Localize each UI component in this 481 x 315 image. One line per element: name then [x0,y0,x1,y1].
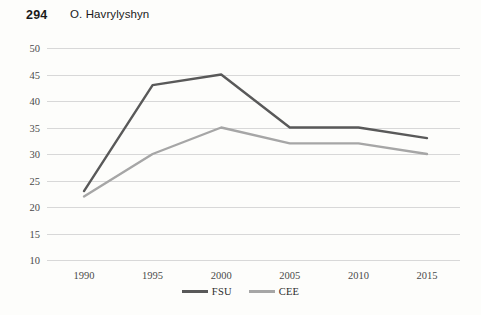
series-line-cee [84,128,427,197]
running-head-author: O. Havrylyshyn [70,8,149,20]
y-axis-tick-label: 15 [30,228,41,239]
y-axis-tick-label: 50 [30,43,41,54]
chart-legend: FSUCEE [0,286,481,297]
y-axis-tick-label: 25 [30,175,41,186]
page-number: 294 [26,8,47,22]
document-page: 294 O. Havrylyshyn 504540353025201510 19… [0,0,481,315]
x-axis-tick-label: 1990 [74,270,95,281]
legend-item-fsu: FSU [182,286,232,297]
page-header: 294 O. Havrylyshyn [0,0,481,34]
y-axis-tick-label: 40 [30,96,41,107]
y-axis-tick-label: 20 [30,202,41,213]
series-lines [47,48,460,260]
y-axis-tick-label: 35 [30,122,41,133]
x-axis-tick-label: 2000 [211,270,232,281]
x-axis-tick-label: 2015 [417,270,438,281]
x-axis-tick-label: 1995 [142,270,163,281]
legend-swatch-fsu [182,290,208,293]
series-line-fsu [84,75,427,192]
y-axis-tick-label: 45 [30,69,41,80]
y-axis-tick-label: 10 [30,255,41,266]
legend-label-fsu: FSU [212,286,232,297]
line-chart: 504540353025201510 199019952000200520102… [0,34,481,315]
gridline [47,260,460,261]
legend-item-cee: CEE [249,286,299,297]
x-axis-tick-label: 2010 [348,270,369,281]
legend-label-cee: CEE [279,286,299,297]
plot-area: 504540353025201510 199019952000200520102… [47,48,460,260]
x-axis-tick-label: 2005 [279,270,300,281]
y-axis-tick-label: 30 [30,149,41,160]
legend-swatch-cee [249,290,275,293]
